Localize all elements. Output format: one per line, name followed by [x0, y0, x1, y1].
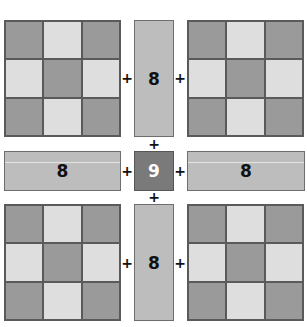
grid-cell-light — [5, 243, 43, 281]
grid-cell-light — [265, 59, 303, 97]
grid-cell-dark — [265, 205, 303, 243]
grid-cell-light — [82, 243, 120, 281]
grid-cell-dark — [82, 282, 120, 320]
plus-bottom-left: + — [121, 256, 133, 270]
grid-cell-light — [43, 282, 81, 320]
grid-cell-dark — [226, 59, 264, 97]
center-label: 9 — [148, 161, 160, 181]
grid-cell-light — [226, 282, 264, 320]
grid-cell-light — [188, 59, 226, 97]
grid-cell-dark — [82, 98, 120, 136]
grid-cell-dark — [82, 21, 120, 59]
grid-cell-light — [82, 59, 120, 97]
grid-cell-dark — [5, 205, 43, 243]
bar-right-label: 8 — [240, 161, 252, 181]
grid-cell-dark — [188, 21, 226, 59]
plus-middle-left: + — [121, 164, 133, 178]
grid-cell-dark — [43, 243, 81, 281]
plus-top-right: + — [174, 71, 186, 85]
bar-left: 8 — [4, 151, 121, 191]
grid-cell-dark — [5, 98, 43, 136]
grid-bottom-left — [4, 204, 121, 321]
grid-top-right — [187, 20, 304, 137]
bar-top-label: 8 — [148, 69, 160, 89]
grid-bottom-right — [187, 204, 304, 321]
grid-cell-light — [265, 243, 303, 281]
grid-cell-light — [5, 59, 43, 97]
grid-cell-dark — [5, 282, 43, 320]
plus-top-left: + — [121, 71, 133, 85]
grid-cell-light — [43, 205, 81, 243]
grid-cell-dark — [43, 59, 81, 97]
plus-middle-right: + — [174, 164, 186, 178]
bar-right: 8 — [187, 151, 305, 191]
grid-top-left — [4, 20, 121, 137]
grid-cell-dark — [5, 21, 43, 59]
bar-bottom: 8 — [134, 204, 174, 321]
grid-cell-light — [226, 205, 264, 243]
grid-cell-dark — [265, 98, 303, 136]
grid-cell-dark — [265, 282, 303, 320]
grid-cell-dark — [82, 205, 120, 243]
grid-cell-dark — [188, 205, 226, 243]
grid-cell-light — [188, 243, 226, 281]
plus-bottom-right: + — [174, 256, 186, 270]
grid-cell-light — [226, 21, 264, 59]
grid-cell-dark — [188, 282, 226, 320]
plus-center-bottom: + — [148, 190, 160, 204]
grid-cell-dark — [265, 21, 303, 59]
bar-bottom-label: 8 — [148, 253, 160, 273]
grid-cell-light — [226, 98, 264, 136]
plus-center-top: + — [148, 137, 160, 151]
grid-cell-light — [43, 21, 81, 59]
center-cell: 9 — [134, 151, 174, 191]
grid-cell-light — [43, 98, 81, 136]
grid-cell-dark — [188, 98, 226, 136]
grid-cell-dark — [226, 243, 264, 281]
bar-left-label: 8 — [57, 161, 69, 181]
bar-top: 8 — [134, 20, 174, 137]
